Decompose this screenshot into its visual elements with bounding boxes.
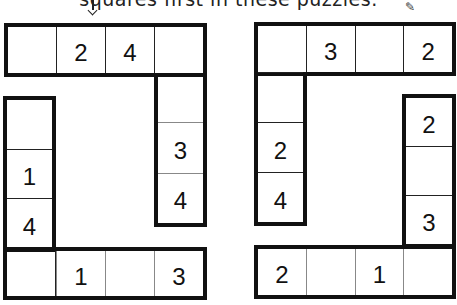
cell[interactable] xyxy=(158,73,203,122)
cell[interactable] xyxy=(306,249,355,295)
cell[interactable]: 4 xyxy=(258,172,303,222)
cell[interactable]: 1 xyxy=(56,251,105,296)
puzzle-2-right-column: 2 3 xyxy=(402,94,456,248)
puzzle-2-bottom-row: 2 1 xyxy=(254,245,456,299)
puzzle-2-top-row: 3 2 xyxy=(254,22,456,76)
puzzle-1-top-row: 2 4 xyxy=(4,23,207,77)
puzzle-2-left-column: 2 4 xyxy=(254,72,307,226)
cell[interactable] xyxy=(258,72,303,122)
instruction-label: squares first in these puzzles. xyxy=(79,0,377,10)
cell[interactable]: 3 xyxy=(406,195,452,244)
cell[interactable] xyxy=(8,27,56,73)
cell[interactable] xyxy=(258,26,306,72)
cell[interactable] xyxy=(355,26,404,72)
cell[interactable]: 2 xyxy=(258,249,306,295)
cell[interactable]: 2 xyxy=(258,122,303,172)
arrow-icon xyxy=(92,0,94,10)
cell[interactable] xyxy=(105,251,154,296)
instruction-text: squares first in these puzzles. xyxy=(0,0,457,10)
cell[interactable]: 3 xyxy=(306,26,355,72)
cell[interactable] xyxy=(7,251,56,296)
puzzle-1-left-column: 1 4 xyxy=(3,96,56,252)
cell[interactable] xyxy=(154,27,203,73)
cell[interactable] xyxy=(406,146,452,195)
cell[interactable]: 4 xyxy=(158,173,203,223)
cell[interactable]: 3 xyxy=(154,251,203,296)
cell[interactable]: 1 xyxy=(355,249,404,295)
cell[interactable]: 2 xyxy=(406,98,452,146)
cell[interactable]: 4 xyxy=(7,198,52,248)
cell[interactable]: 3 xyxy=(158,122,203,172)
cell[interactable]: 2 xyxy=(56,27,105,73)
pencil-icon: ✎ xyxy=(405,0,427,10)
cell[interactable] xyxy=(7,100,52,149)
cell[interactable]: 4 xyxy=(105,27,154,73)
cell[interactable]: 1 xyxy=(7,149,52,199)
puzzle-1-right-column: 3 4 xyxy=(154,73,207,227)
cell[interactable]: 2 xyxy=(403,26,452,72)
puzzle-1-bottom-row: 1 3 xyxy=(3,247,207,300)
cell[interactable] xyxy=(403,249,452,295)
